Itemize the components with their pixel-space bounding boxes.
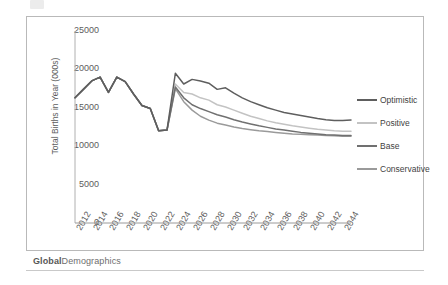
watermark-global-demographics: GlobalDemographics (33, 256, 121, 266)
legend-swatch-positive (357, 122, 377, 124)
legend-swatch-optimistic (357, 99, 377, 101)
legend-item-conservative[interactable]: Conservative (357, 164, 430, 174)
legend-swatch-conservative (357, 168, 377, 170)
legend-label: Conservative (380, 164, 430, 174)
watermark-rest: Demographics (62, 256, 121, 266)
series-line-positive (75, 77, 351, 131)
legend-label: Base (380, 141, 399, 151)
legend-item-base[interactable]: Base (357, 141, 399, 151)
chart-frame: Total Births in Year (000s) 250002000015… (26, 16, 424, 251)
legend-swatch-base (357, 145, 377, 147)
footer-divider (26, 270, 424, 271)
legend-label: Optimistic (380, 95, 417, 105)
legend-item-positive[interactable]: Positive (357, 118, 410, 128)
legend-label: Positive (380, 118, 410, 128)
scan-artifact (30, 0, 44, 9)
watermark-bold: Global (33, 256, 62, 266)
chart-figure: Total Births in Year (000s) 250002000015… (0, 0, 448, 285)
legend-item-optimistic[interactable]: Optimistic (357, 95, 417, 105)
plot-area (27, 17, 423, 250)
